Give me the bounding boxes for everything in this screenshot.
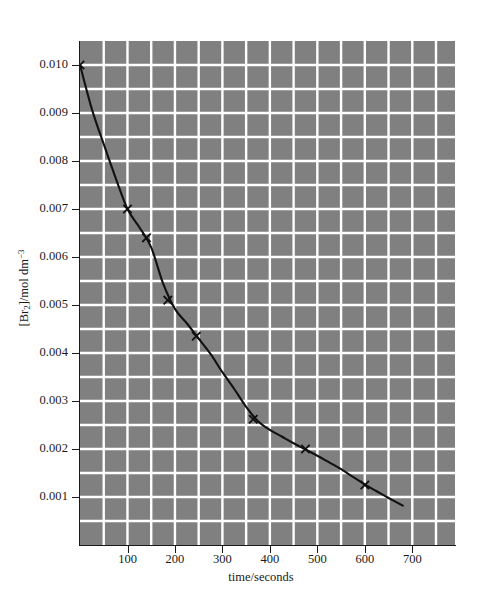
x-axis-tick-label: 700: [387, 553, 437, 566]
y-axis-tick: [72, 497, 79, 498]
x-axis-line: [79, 545, 456, 546]
y-axis-tick: [72, 161, 79, 162]
y-axis-title-text: [Br2]/mol dm−3: [17, 250, 31, 327]
plot-canvas: [80, 41, 455, 545]
y-axis-tick: [72, 65, 79, 66]
x-axis-tick-label: 400: [245, 553, 295, 566]
y-axis-tick-label: 0.008: [6, 154, 68, 167]
y-axis-tick-label: 0.009: [6, 106, 68, 119]
y-axis-tick-label: 0.002: [6, 442, 68, 455]
horizontal-gridlines: [80, 65, 455, 521]
x-axis-title-text: time/seconds: [228, 570, 293, 585]
x-axis-tick-label: 600: [340, 553, 390, 566]
y-axis-tick: [72, 449, 79, 450]
y-axis-tick: [72, 113, 79, 114]
plot-area: [80, 41, 455, 545]
x-axis-tick-label: 100: [103, 553, 153, 566]
x-axis-tick-label: 300: [197, 553, 247, 566]
y-axis-tick: [72, 305, 79, 306]
bromine-concentration-chart: 0.0010.0020.0030.0040.0050.0060.0070.008…: [0, 0, 478, 603]
x-axis-title: time/seconds: [0, 570, 478, 585]
vertical-gridlines: [104, 41, 436, 545]
y-axis-line: [79, 41, 80, 546]
y-axis-tick: [72, 209, 79, 210]
x-axis-tick-label: 500: [292, 553, 342, 566]
y-axis-tick: [72, 353, 79, 354]
y-axis-tick-labels: 0.0010.0020.0030.0040.0050.0060.0070.008…: [0, 0, 68, 603]
y-axis-tick-label: 0.010: [6, 58, 68, 71]
y-axis-tick: [72, 401, 79, 402]
x-axis-tick-label: 200: [150, 553, 200, 566]
y-axis-tick-label: 0.001: [6, 490, 68, 503]
y-axis-tick: [72, 257, 79, 258]
data-point: [142, 234, 150, 242]
y-axis-title: [Br2]/mol dm−3: [16, 178, 32, 398]
